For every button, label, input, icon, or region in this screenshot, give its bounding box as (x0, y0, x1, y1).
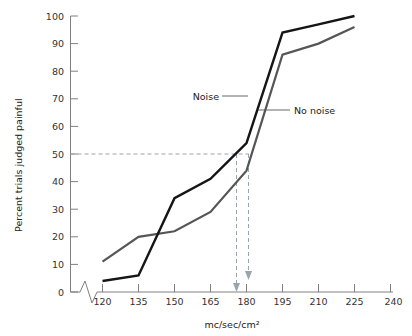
x-tick-label-135: 135 (129, 296, 147, 307)
x-tick-label-180: 180 (237, 296, 255, 307)
series-label-no-noise: No noise (294, 105, 335, 116)
y-tick-label-90: 90 (52, 38, 64, 49)
y-tick-label-100: 100 (46, 11, 64, 22)
series-line-noise (103, 16, 355, 281)
x-tick-label-240: 240 (384, 296, 402, 307)
y-tick-label-70: 70 (52, 93, 64, 104)
y-tick-label-60: 60 (52, 121, 64, 132)
x-tick-label-195: 195 (273, 296, 291, 307)
noise-threshold-arrow (233, 154, 240, 292)
chart-plot-area: 100 90 80 70 60 50 40 30 20 10 0 Percent… (0, 0, 412, 336)
no-noise-threshold-arrow (245, 154, 252, 280)
x-tick-label-120: 120 (93, 296, 111, 307)
x-tick-label-165: 165 (201, 296, 219, 307)
y-tick-label-10: 10 (52, 259, 64, 270)
x-axis-title: mc/sec/cm² (204, 319, 259, 330)
x-tick-label-225: 225 (345, 296, 363, 307)
y-tick-label-80: 80 (52, 66, 64, 77)
y-tick-label-40: 40 (52, 176, 64, 187)
series-line-no-noise (103, 27, 355, 262)
x-axis-ticks (103, 284, 391, 292)
series-label-noise: Noise (193, 91, 220, 102)
y-axis-title: Percent trials judged painful (13, 98, 24, 232)
line-chart: 100 90 80 70 60 50 40 30 20 10 0 Percent… (0, 0, 412, 336)
y-tick-label-20: 20 (52, 231, 64, 242)
x-tick-label-210: 210 (309, 296, 327, 307)
x-tick-label-150: 150 (165, 296, 183, 307)
y-tick-label-30: 30 (52, 204, 64, 215)
y-tick-label-0: 0 (58, 287, 64, 298)
y-tick-label-50: 50 (52, 149, 64, 160)
